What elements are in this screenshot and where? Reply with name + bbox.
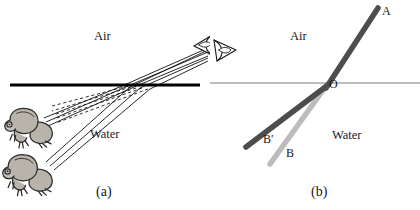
panel-b: Air Water A B′ B O (b) <box>210 0 420 210</box>
refraction-figure: Air Water (a) Air Water A B′ B <box>0 0 420 210</box>
point-label-O: O <box>329 78 338 90</box>
eye-icon <box>194 34 210 55</box>
panel-b-air-label: Air <box>290 30 307 43</box>
panel-b-water-label: Water <box>332 129 362 142</box>
frog-upper <box>5 108 53 147</box>
refracted-rays-to-eye <box>122 48 208 89</box>
ray-label-B: B <box>286 147 294 159</box>
ray-incident-OA <box>326 8 378 88</box>
eye-icon <box>214 40 236 61</box>
panel-b-drawing <box>210 0 420 210</box>
ray-label-A: A <box>382 5 391 17</box>
ray-label-B-prime: B′ <box>263 133 274 145</box>
panel-a-water-label: Water <box>90 128 120 141</box>
panel-a-air-label: Air <box>94 30 111 43</box>
panel-b-caption: (b) <box>311 185 327 199</box>
panel-a-caption: (a) <box>96 185 112 199</box>
panel-a: Air Water (a) <box>0 0 210 210</box>
frog-lower <box>3 155 53 196</box>
